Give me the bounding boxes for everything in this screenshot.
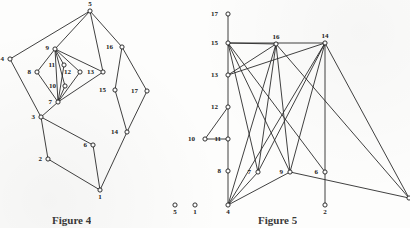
graph-edge — [55, 49, 103, 72]
graph-node-label-8: 8 — [218, 167, 222, 175]
graph-edge — [228, 44, 276, 75]
graph-node-4 — [8, 57, 12, 61]
graph-edge — [58, 72, 80, 102]
graph-node-label-7: 7 — [248, 168, 252, 176]
graph-node-14 — [323, 41, 327, 45]
graph-node-4 — [226, 203, 230, 207]
graph-node-10 — [63, 84, 67, 88]
graph-node-13 — [226, 73, 230, 77]
graph-node-label-12: 12 — [211, 103, 219, 111]
graph-edge — [258, 44, 276, 172]
graph-edge — [122, 47, 147, 91]
graph-edge — [93, 145, 100, 190]
graph-node-label-10: 10 — [49, 82, 57, 90]
graph-node-label-4: 4 — [226, 208, 230, 216]
graph-edge — [228, 172, 290, 205]
graph-node-label-13: 13 — [211, 71, 219, 79]
graph-node-7 — [56, 100, 60, 104]
graph-node-13 — [101, 70, 105, 74]
graph-node-2 — [46, 157, 50, 161]
graph-node-label-14: 14 — [111, 128, 119, 136]
graph-node-8 — [35, 70, 39, 74]
graph-node-label-1: 1 — [98, 193, 102, 201]
graph-node-label-15: 15 — [211, 39, 219, 47]
figure-page: 5498111213107326116151714171513128410111… — [0, 0, 410, 228]
graph-node-11 — [226, 137, 230, 141]
graph-node-16 — [274, 42, 278, 46]
graph-edge — [41, 117, 48, 159]
nodes-layer — [8, 9, 410, 207]
graph-node-9 — [288, 170, 292, 174]
labels-layer: 5498111213107326116151714171513128410111… — [1, 0, 330, 216]
graph-edge — [10, 59, 41, 117]
graph-node-label-17: 17 — [211, 10, 219, 18]
graph-node-label-16: 16 — [106, 43, 114, 51]
graph-node-label-17: 17 — [131, 87, 139, 95]
graph-node-label-16: 16 — [273, 33, 281, 41]
graph-node-15 — [113, 88, 117, 92]
graph-node-1 — [98, 188, 102, 192]
graph-node-label-5: 5 — [88, 0, 92, 8]
graph-node-label-3: 3 — [32, 113, 36, 121]
graph-node-label-15: 15 — [99, 86, 107, 94]
graph-node-11 — [62, 63, 66, 67]
graph-edge — [55, 11, 90, 49]
graph-node-label-9: 9 — [46, 44, 50, 52]
graph-node-label-13: 13 — [87, 68, 95, 76]
graph-node-label-5: 5 — [173, 208, 177, 216]
graph-node-10 — [203, 137, 207, 141]
graph-node-1 — [193, 203, 197, 207]
graph-node-12 — [78, 70, 82, 74]
graph-edge — [115, 90, 127, 132]
graph-node-label-4: 4 — [1, 55, 5, 63]
graph-edge — [228, 44, 276, 205]
graph-edge — [100, 132, 127, 190]
graph-node-label-11: 11 — [214, 135, 221, 143]
graph-edge — [325, 43, 409, 198]
graph-node-17 — [226, 12, 230, 16]
graph-node-17 — [145, 89, 149, 93]
graph-edge — [228, 43, 325, 205]
graph-node-14 — [125, 130, 129, 134]
graph-node-7 — [256, 170, 260, 174]
graph-edge — [48, 159, 100, 190]
graph-edge — [290, 172, 409, 198]
graph-edge — [90, 11, 122, 47]
graph-node-label-11: 11 — [48, 61, 55, 69]
graph-edge — [127, 91, 147, 132]
figure-4-caption: Figure 4 — [52, 214, 91, 228]
graph-node-5 — [173, 203, 177, 207]
graph-edge — [276, 44, 290, 172]
graph-edge — [90, 11, 103, 72]
graph-node-3 — [39, 115, 43, 119]
graph-node-8 — [226, 169, 230, 173]
graph-node-label-6: 6 — [84, 141, 88, 149]
graph-node-label-2: 2 — [39, 155, 43, 163]
graph-edge — [115, 47, 122, 90]
graph-node-label-2: 2 — [323, 208, 327, 216]
graph-node-15 — [226, 41, 230, 45]
graph-node-6 — [323, 170, 327, 174]
graph-canvas: 5498111213107326116151714171513128410111… — [0, 0, 410, 228]
graph-edge — [276, 44, 409, 198]
graph-node-12 — [226, 105, 230, 109]
edges-layer — [10, 11, 409, 205]
graph-node-label-7: 7 — [49, 98, 53, 106]
graph-node-9 — [53, 47, 57, 51]
graph-node-label-6: 6 — [315, 168, 319, 176]
graph-node-6 — [91, 143, 95, 147]
graph-edge — [290, 43, 325, 172]
figure-5-caption: Figure 5 — [258, 214, 297, 228]
graph-node-16 — [120, 45, 124, 49]
graph-edge — [10, 11, 90, 59]
graph-node-label-10: 10 — [188, 135, 196, 143]
graph-node-label-12: 12 — [64, 68, 72, 76]
graph-node-label-9: 9 — [280, 168, 284, 176]
graph-node-label-8: 8 — [28, 68, 32, 76]
graph-node-5 — [88, 9, 92, 13]
graph-node-label-1: 1 — [193, 208, 197, 216]
graph-node-2 — [323, 203, 327, 207]
graph-node-label-14: 14 — [322, 32, 330, 40]
